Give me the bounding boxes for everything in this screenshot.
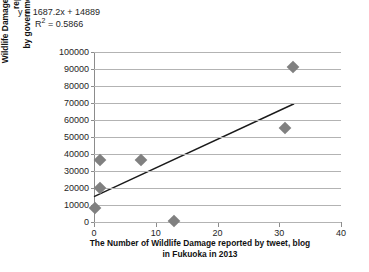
y-tick-mark — [91, 171, 94, 172]
y-axis-title-line2: by government (x10000/Yen) — [22, 0, 33, 80]
y-tick-label: 0 — [84, 217, 89, 227]
x-tick-mark — [94, 223, 95, 227]
x-axis-title: The Number of Wildlife Damage reported b… — [50, 238, 350, 260]
y-tick-label: 90000 — [64, 64, 89, 74]
y-tick-mark — [91, 69, 94, 70]
x-tick-label: 40 — [336, 228, 346, 238]
x-tick-mark — [341, 223, 342, 227]
y-tick-label: 100000 — [59, 47, 89, 57]
x-tick-label: 0 — [91, 228, 96, 238]
y-tick-mark — [91, 52, 94, 53]
gridline — [94, 52, 341, 53]
gridline — [94, 103, 341, 104]
x-tick-mark — [279, 223, 280, 227]
y-tick-label: 80000 — [64, 81, 89, 91]
plot-area: 0100002000030000400005000060000700008000… — [94, 52, 341, 222]
y-tick-label: 40000 — [64, 149, 89, 159]
gridline — [94, 120, 341, 121]
x-tick-mark — [218, 223, 219, 227]
x-tick-mark — [156, 223, 157, 227]
y-tick-label: 70000 — [64, 98, 89, 108]
x-axis-title-line2: in Fukuoka in 2013 — [50, 249, 350, 260]
x-axis-title-line1: The Number of Wildlife Damage reported b… — [50, 238, 350, 249]
y-tick-label: 60000 — [64, 115, 89, 125]
y-tick-mark — [91, 103, 94, 104]
gridline — [94, 137, 341, 138]
gridline — [94, 69, 341, 70]
y-axis-title-line1: Wildlife Damage of Fukuoka in 2013 repor… — [0, 0, 22, 80]
scatter-chart: y = 1687.2x + 14889 R2 = 0.5866 Wildlife… — [0, 0, 369, 272]
x-tick-label: 30 — [274, 228, 284, 238]
y-tick-label: 30000 — [64, 166, 89, 176]
y-tick-mark — [91, 154, 94, 155]
y-axis-title: Wildlife Damage of Fukuoka in 2013 repor… — [0, 0, 30, 80]
gridline — [94, 205, 341, 206]
gridline — [94, 188, 341, 189]
y-tick-label: 50000 — [64, 132, 89, 142]
gridline — [94, 154, 341, 155]
x-tick-label: 10 — [151, 228, 161, 238]
y-tick-label: 10000 — [64, 200, 89, 210]
y-tick-label: 20000 — [64, 183, 89, 193]
gridline — [94, 86, 341, 87]
x-tick-label: 20 — [212, 228, 222, 238]
y-tick-mark — [91, 137, 94, 138]
y-tick-mark — [91, 120, 94, 121]
gridline — [94, 171, 341, 172]
y-tick-mark — [91, 86, 94, 87]
